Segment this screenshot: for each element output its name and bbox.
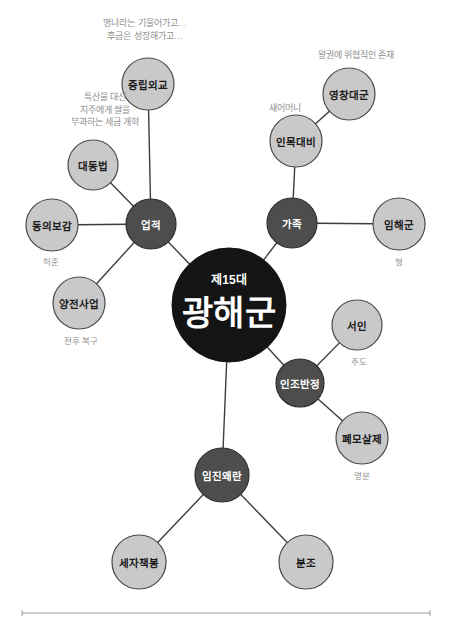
annotation-inmokdaebi: 새어머니 — [269, 103, 301, 113]
node-label-seoin: 서인 — [347, 320, 367, 332]
node-yeongchangdaegun[interactable]: 영창대군 — [323, 68, 375, 120]
edge-center-to-eopjeok — [168, 241, 191, 264]
node-label-yeongchangdaegun: 영창대군 — [329, 89, 369, 101]
node-label-imjinwaeran: 임진왜란 — [202, 470, 242, 482]
node-sejachaekbong[interactable]: 세자책봉 — [112, 535, 166, 589]
edge-imjinwaeran-to-bunjo — [240, 494, 288, 544]
mindmap-canvas: 중립외교대동법동의보감양전사업인목대비영창대군임해군서인폐모살제세자책봉분조업적… — [0, 0, 452, 633]
edge-eopjeok-to-yangjeonsaeop — [96, 242, 135, 285]
node-label-inmokdaebi: 인목대비 — [276, 136, 316, 148]
node-label-imhaegun: 임해군 — [384, 219, 414, 231]
edge-center-to-imjinwaeran — [223, 361, 227, 449]
node-eopjeok[interactable]: 업적 — [126, 199, 176, 249]
node-label-daedongbeop: 대동법 — [78, 160, 108, 172]
node-label-gajok: 가족 — [282, 218, 302, 230]
node-imhaegun[interactable]: 임해군 — [373, 198, 425, 250]
node-label-jungnipoegyo: 중립외교 — [128, 79, 168, 91]
edge-center-to-gajok — [263, 242, 277, 261]
node-injobanjeong[interactable]: 인조반정 — [276, 359, 324, 407]
edge-injobanjeong-to-pyemosalje — [317, 398, 343, 421]
node-bunjo[interactable]: 분조 — [279, 535, 333, 589]
node-label-pyemosalje: 폐모살제 — [342, 433, 382, 445]
node-layer: 중립외교대동법동의보감양전사업인목대비영창대군임해군서인폐모살제세자책봉분조업적… — [26, 58, 425, 589]
edge-injobanjeong-to-seoin — [316, 342, 340, 366]
edge-gajok-to-imhaegun — [316, 223, 374, 224]
footer-rule-layer — [22, 610, 430, 616]
node-gwanghaegun[interactable]: 제15대광해군 — [172, 248, 286, 362]
node-inmokdaebi[interactable]: 인목대비 — [270, 115, 322, 167]
node-pyemosalje[interactable]: 폐모살제 — [336, 412, 388, 464]
caption-seoin: 주도 — [351, 357, 367, 367]
node-yangjeonsaeop[interactable]: 양전사업 — [53, 277, 105, 329]
edge-eopjeok-to-daedongbeop — [110, 182, 134, 207]
annotation-yeongchangdaegun: 왕권에 위협적인 존재 — [318, 49, 395, 60]
node-imjinwaeran[interactable]: 임진왜란 — [195, 448, 249, 502]
caption-yangjeonsaeop: 전후 복구 — [64, 336, 98, 346]
node-label-eopjeok: 업적 — [141, 219, 161, 231]
node-donguibogam[interactable]: 동의보감 — [26, 199, 78, 251]
center-title: 광해군 — [182, 295, 277, 332]
node-label-yangjeonsaeop: 양전사업 — [59, 298, 99, 310]
node-label-donguibogam: 동의보감 — [32, 220, 72, 232]
caption-donguibogam: 허준 — [43, 257, 59, 267]
edge-gajok-to-inmokdaebi — [293, 166, 295, 199]
node-daedongbeop[interactable]: 대동법 — [68, 140, 118, 190]
node-label-bunjo: 분조 — [296, 557, 316, 569]
node-label-injobanjeong: 인조반정 — [280, 378, 320, 390]
center-superscript: 제15대 — [211, 273, 246, 287]
edge-eopjeok-to-donguibogam — [77, 224, 127, 225]
mindmap-page: 중립외교대동법동의보감양전사업인목대비영창대군임해군서인폐모살제세자책봉분조업적… — [0, 0, 452, 633]
edge-eopjeok-to-jungnipoegyo — [149, 109, 151, 200]
node-label-sejachaekbong: 세자책봉 — [119, 557, 159, 569]
edge-inmokdaebi-to-yeongchangdaegun — [315, 111, 331, 125]
node-jungnipoegyo[interactable]: 중립외교 — [122, 58, 174, 110]
edge-center-to-injobanjeong — [267, 346, 285, 366]
caption-pyemosalje: 명분 — [354, 471, 370, 481]
node-seoin[interactable]: 서인 — [332, 300, 382, 350]
annotation-jungnipoegyo: 명나라는 기울어가고…후금은 성장해가고… — [103, 18, 186, 41]
caption-imhaegun: 형 — [395, 257, 403, 267]
node-gajok[interactable]: 가족 — [267, 198, 317, 248]
edge-imjinwaeran-to-sejachaekbong — [157, 494, 204, 543]
